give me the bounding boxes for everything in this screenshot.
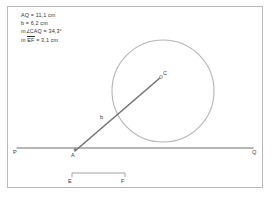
point-label-p[interactable]: P: [13, 149, 17, 155]
measurement-aq-length[interactable]: AQ = 11,1 cm: [21, 11, 131, 19]
point-label-e[interactable]: E: [68, 178, 72, 184]
measurement-list: AQ = 11,1 cm b = 6,2 cm m∠CAQ = 34,3° m …: [21, 11, 131, 44]
measurement-ef-length[interactable]: m EF = 3,1 cm: [21, 36, 131, 44]
point-label-a[interactable]: A: [71, 152, 75, 158]
segment-label-b[interactable]: b: [100, 114, 103, 120]
measurement-angle-caq[interactable]: m∠CAQ = 34,3°: [21, 27, 131, 35]
point-label-c[interactable]: C: [163, 70, 167, 76]
measurement-b-length[interactable]: b = 6,2 cm: [21, 19, 131, 27]
point-label-q[interactable]: Q: [252, 149, 256, 155]
point-label-f[interactable]: F: [121, 178, 125, 184]
point-a-dot: [74, 148, 76, 150]
measurement-ef-suffix: = 3,1 cm: [35, 37, 59, 43]
circle-c: [112, 40, 214, 142]
figure-canvas: AQ = 11,1 cm b = 6,2 cm m∠CAQ = 34,3° m …: [0, 0, 272, 198]
measurement-ef-overline-label: EF: [27, 36, 34, 44]
